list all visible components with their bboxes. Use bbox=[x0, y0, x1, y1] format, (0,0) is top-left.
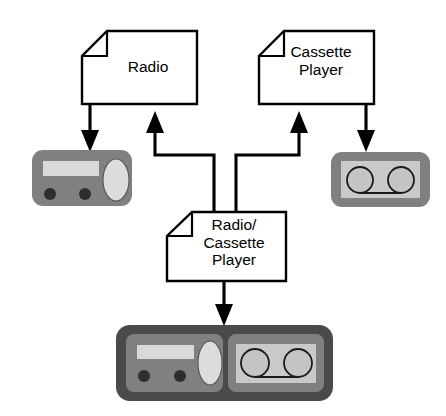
diagram-canvas: Radio Cassette Player Radio/ Cassette Pl… bbox=[0, 0, 446, 416]
radio-note[interactable] bbox=[82, 31, 197, 104]
radio-cassette-player-note[interactable] bbox=[167, 212, 286, 281]
note-layer bbox=[0, 0, 446, 416]
cassette-player-note[interactable] bbox=[259, 31, 374, 104]
